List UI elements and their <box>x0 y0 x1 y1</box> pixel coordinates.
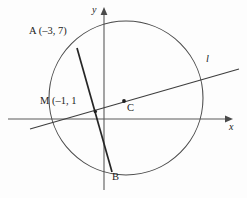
y-axis-label: y <box>92 5 96 15</box>
point-m-marker <box>94 110 97 113</box>
y-axis-arrowhead <box>101 7 108 15</box>
point-c-label: C <box>127 103 134 114</box>
chord-ab-segment <box>77 48 112 172</box>
y-axis <box>101 7 108 190</box>
point-a-label: A (–3, 7) <box>29 26 67 37</box>
line-l-label: l <box>206 54 209 65</box>
x-axis-label: x <box>229 122 233 132</box>
point-m-label: M (–1, 1 <box>40 96 76 107</box>
geometry-figure: A (–3, 7) M (–1, 1 C B l y x <box>0 0 247 198</box>
point-c-marker <box>122 99 126 103</box>
point-b-label: B <box>112 172 119 183</box>
